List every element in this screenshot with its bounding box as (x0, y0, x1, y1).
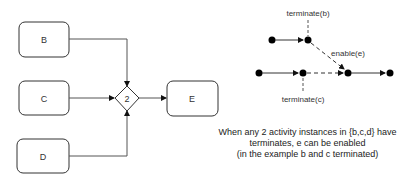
enable-e-label: enable(e) (331, 49, 365, 58)
b-terminate-dot (305, 37, 312, 44)
activity-e: E (167, 81, 218, 116)
enable-e-dot (345, 70, 352, 77)
caption-line-3: (in the example b and c terminated) (200, 149, 407, 160)
gateway-2-of-n: 2 (115, 86, 139, 111)
terminate-b-label: terminate(b) (286, 9, 329, 18)
caption-line-1: When any 2 activity instances in {b,c,d}… (200, 127, 407, 138)
activity-b-label: B (41, 35, 47, 45)
caption-line-2: terminates, e can be enabled (200, 138, 407, 149)
c-terminate-dot (300, 70, 307, 77)
activity-e-label: E (189, 94, 195, 104)
activity-c-label: C (41, 94, 48, 104)
b-start-dot (269, 37, 276, 44)
activity-d-label: D (40, 152, 47, 162)
caption: When any 2 activity instances in {b,c,d}… (200, 127, 407, 160)
e-end-dot (387, 70, 394, 77)
c-start-dot (256, 70, 263, 77)
activity-b: B (19, 22, 69, 57)
gateway-label: 2 (124, 94, 129, 104)
terminate-c-label: terminate(c) (282, 95, 325, 104)
edge-b-to-gateway (69, 39, 127, 86)
activity-d: D (17, 139, 69, 173)
activity-c: C (19, 81, 69, 115)
edge-d-to-gateway (69, 111, 127, 156)
